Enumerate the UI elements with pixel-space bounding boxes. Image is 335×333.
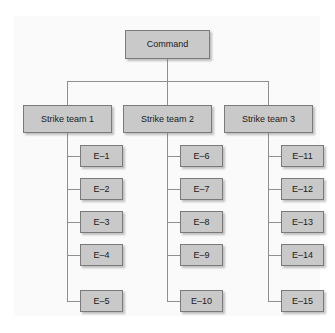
stub-e-1: [67, 156, 80, 157]
connector-bus-to-team-2: [167, 81, 168, 105]
node-e-1[interactable]: E–1: [80, 145, 123, 167]
stub-e-12: [268, 189, 281, 190]
stub-e-4: [67, 255, 80, 256]
node-strike-team-2[interactable]: Strike team 2: [123, 105, 212, 133]
stub-e-6: [167, 156, 180, 157]
node-e-2[interactable]: E–2: [80, 178, 123, 200]
spine-team-1: [67, 133, 68, 301]
org-chart-canvas: Command Strike team 1 Strike team 2 Stri…: [0, 0, 335, 333]
node-strike-team-1[interactable]: Strike team 1: [23, 105, 112, 133]
stub-e-14: [268, 255, 281, 256]
stub-e-11: [268, 156, 281, 157]
node-e-5[interactable]: E–5: [80, 290, 123, 312]
stub-e-3: [67, 222, 80, 223]
node-e-10[interactable]: E–10: [180, 290, 223, 312]
stub-e-7: [167, 189, 180, 190]
connector-bus-to-team-3: [268, 81, 269, 105]
spine-team-2: [167, 133, 168, 301]
node-e-12[interactable]: E–12: [281, 178, 324, 200]
node-e-13[interactable]: E–13: [281, 211, 324, 233]
node-e-14[interactable]: E–14: [281, 244, 324, 266]
node-e-3[interactable]: E–3: [80, 211, 123, 233]
stub-e-15: [268, 301, 281, 302]
stub-e-13: [268, 222, 281, 223]
node-e-4[interactable]: E–4: [80, 244, 123, 266]
stub-e-8: [167, 222, 180, 223]
stub-e-10: [167, 301, 180, 302]
node-e-6[interactable]: E–6: [180, 145, 223, 167]
node-command[interactable]: Command: [125, 30, 210, 59]
node-e-9[interactable]: E–9: [180, 244, 223, 266]
connector-command-to-bus: [167, 59, 168, 81]
node-e-7[interactable]: E–7: [180, 178, 223, 200]
node-e-15[interactable]: E–15: [281, 290, 324, 312]
node-e-11[interactable]: E–11: [281, 145, 324, 167]
spine-team-3: [268, 133, 269, 301]
node-e-8[interactable]: E–8: [180, 211, 223, 233]
node-strike-team-3[interactable]: Strike team 3: [224, 105, 313, 133]
stub-e-2: [67, 189, 80, 190]
connector-bus-to-team-1: [67, 81, 68, 105]
stub-e-9: [167, 255, 180, 256]
stub-e-5: [67, 301, 80, 302]
